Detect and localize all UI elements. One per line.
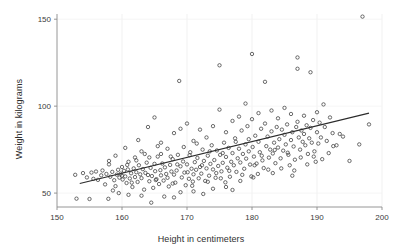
data-point: [231, 188, 234, 191]
data-point: [301, 140, 304, 143]
data-point: [137, 138, 140, 141]
data-point: [228, 169, 231, 172]
data-point: [296, 56, 299, 59]
data-point: [100, 174, 103, 177]
data-point: [192, 173, 195, 176]
data-point: [179, 127, 182, 130]
data-point: [116, 168, 119, 171]
data-point: [111, 170, 114, 173]
data-point: [94, 170, 97, 173]
data-point: [230, 160, 233, 163]
data-point: [338, 132, 341, 135]
data-point: [200, 172, 203, 175]
data-point: [153, 169, 156, 172]
data-point: [280, 128, 283, 131]
data-point: [297, 136, 300, 139]
data-point: [276, 146, 279, 149]
data-point: [341, 135, 344, 138]
data-point: [105, 172, 108, 175]
data-point: [270, 109, 273, 112]
data-point: [166, 147, 169, 150]
data-point: [142, 188, 145, 191]
data-point: [179, 165, 182, 168]
data-point: [293, 169, 296, 172]
data-point: [254, 134, 257, 137]
data-point: [218, 108, 221, 111]
data-point: [192, 139, 195, 142]
data-point: [276, 117, 279, 120]
data-point: [75, 197, 78, 200]
data-point: [270, 130, 273, 133]
data-point: [251, 145, 254, 148]
data-point: [306, 152, 309, 155]
data-point: [165, 172, 168, 175]
data-point: [231, 151, 234, 154]
data-point: [126, 168, 129, 171]
data-point: [195, 142, 198, 145]
data-point: [172, 196, 175, 199]
data-point: [157, 182, 160, 185]
data-point: [274, 161, 277, 164]
data-point: [241, 173, 244, 176]
data-point: [150, 174, 153, 177]
data-point: [148, 180, 151, 183]
data-point: [205, 136, 208, 139]
data-point: [107, 197, 110, 200]
data-point: [273, 148, 276, 151]
data-point: [187, 177, 190, 180]
data-point: [228, 175, 231, 178]
data-point: [152, 186, 155, 189]
data-point: [271, 171, 274, 174]
data-point: [237, 115, 240, 118]
data-point: [361, 15, 364, 18]
data-point: [182, 145, 185, 148]
data-point: [172, 131, 175, 134]
data-point: [244, 102, 247, 105]
data-point: [156, 144, 159, 147]
data-point: [163, 195, 166, 198]
data-point: [131, 185, 134, 188]
data-point: [215, 171, 218, 174]
data-point: [135, 159, 138, 162]
data-point: [332, 144, 335, 147]
data-point: [211, 168, 214, 171]
data-point: [140, 176, 143, 179]
data-point: [257, 111, 260, 114]
data-point: [302, 114, 305, 117]
data-point: [226, 166, 229, 169]
data-point: [291, 174, 294, 177]
data-point: [234, 140, 237, 143]
data-point: [260, 154, 263, 157]
data-point: [293, 158, 296, 161]
data-point: [239, 161, 242, 164]
data-point: [163, 166, 166, 169]
data-point: [103, 183, 106, 186]
data-point: [367, 123, 370, 126]
data-point: [193, 160, 196, 163]
data-point: [196, 156, 199, 159]
data-point: [318, 121, 321, 124]
data-point: [282, 149, 285, 152]
data-point: [190, 167, 193, 170]
x-tick-label: 150: [50, 213, 64, 222]
data-point: [241, 152, 244, 155]
data-point: [159, 168, 162, 171]
data-point: [133, 175, 136, 178]
data-point: [176, 163, 179, 166]
data-point: [114, 184, 117, 187]
data-point: [222, 141, 225, 144]
data-point: [296, 120, 299, 123]
plot-canvas: 50100150 150160170180190200: [0, 0, 402, 252]
data-point: [308, 137, 311, 140]
x-tick-label: 170: [180, 213, 194, 222]
data-point: [263, 122, 266, 125]
data-point: [267, 156, 270, 159]
data-point: [283, 106, 286, 109]
data-point: [269, 148, 272, 151]
data-point: [146, 173, 149, 176]
data-point: [319, 136, 322, 139]
y-axis-ticks: 50100150: [38, 15, 57, 198]
data-point: [306, 163, 309, 166]
data-point: [256, 172, 259, 175]
data-point: [180, 176, 183, 179]
